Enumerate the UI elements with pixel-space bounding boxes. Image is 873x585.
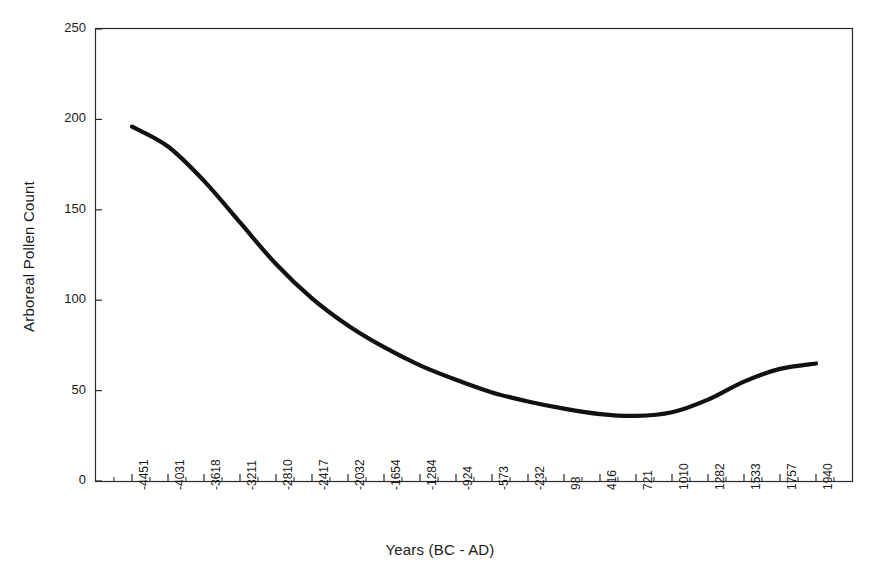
x-tick-label: -1654 <box>389 459 403 490</box>
x-tick-label: -3211 <box>245 460 259 490</box>
x-tick-label: 98 <box>569 477 583 490</box>
x-tick-label: -232 <box>533 466 547 490</box>
x-tick-label: -2417 <box>317 459 331 490</box>
chart-plot-area <box>0 0 873 585</box>
x-tick-label: 1757 <box>785 463 799 490</box>
plot-frame <box>96 29 853 482</box>
x-tick-label: 1010 <box>677 463 691 490</box>
y-tick-label: 200 <box>42 110 86 125</box>
y-tick-label: 0 <box>42 472 86 487</box>
x-tick-label: -1284 <box>425 459 439 490</box>
x-tick-label: -573 <box>497 466 511 490</box>
x-tick-label: 1940 <box>821 463 835 490</box>
x-tick-label: 1282 <box>713 463 727 490</box>
x-axis-title: Years (BC - AD) <box>325 541 555 558</box>
pollen-count-chart-figure: 250200150100500 -4451-4031-3618-3211-281… <box>0 0 873 585</box>
x-tick-label: -924 <box>461 466 475 490</box>
x-tick-label: -3618 <box>209 459 223 490</box>
x-tick-label: 416 <box>605 470 619 490</box>
y-tick-label: 100 <box>42 291 86 306</box>
y-tick-label: 250 <box>42 20 86 35</box>
x-tick-label: -2810 <box>281 459 295 490</box>
x-tick-label: 1533 <box>749 463 763 490</box>
y-axis-title: Arboreal Pollen Count <box>20 107 37 407</box>
x-tick-label: -4451 <box>137 459 151 490</box>
y-tick-label: 150 <box>42 201 86 216</box>
y-tick-label: 50 <box>42 382 86 397</box>
x-tick-label: 721 <box>641 470 655 490</box>
x-tick-label: -4031 <box>173 459 187 490</box>
x-tick-label: -2032 <box>353 459 367 490</box>
